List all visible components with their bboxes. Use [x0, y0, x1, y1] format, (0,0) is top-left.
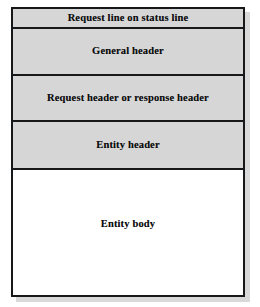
block-request-response-header: Request header or response header: [13, 76, 243, 122]
block-request-response-header-label: Request header or response header: [41, 92, 215, 104]
http-message-frame: Request line on status line General head…: [11, 7, 245, 297]
block-entity-header: Entity header: [13, 122, 243, 170]
block-entity-body: Entity body: [13, 170, 243, 295]
block-entity-header-label: Entity header: [90, 139, 166, 151]
diagram-canvas: Request line on status line General head…: [0, 0, 260, 307]
block-general-header-label: General header: [86, 45, 170, 57]
block-entity-body-label: Entity body: [95, 218, 161, 230]
block-status-line: Request line on status line: [13, 9, 243, 29]
block-status-line-label: Request line on status line: [62, 12, 195, 24]
block-general-header: General header: [13, 29, 243, 76]
